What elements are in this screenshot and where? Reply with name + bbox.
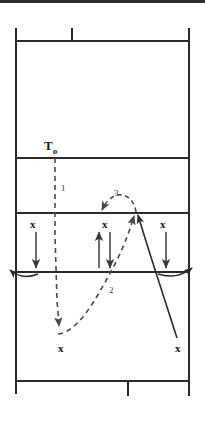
player-mark-front-middle: x bbox=[102, 218, 108, 230]
player-mark-back-right: x bbox=[175, 342, 181, 354]
path-2-dashed-curve bbox=[58, 216, 134, 334]
attack-lines bbox=[16, 158, 189, 213]
path-3-dashed-arc bbox=[102, 195, 136, 212]
server-label-text: T bbox=[44, 138, 53, 153]
net-outward-arrow-left bbox=[10, 270, 38, 276]
court-boundary bbox=[16, 41, 189, 381]
path-2-label: 2 bbox=[109, 285, 114, 295]
server-label: To bbox=[44, 138, 57, 156]
server-label-subscript: o bbox=[53, 146, 58, 156]
player-mark-front-right: x bbox=[160, 218, 166, 230]
player-mark-front-left: x bbox=[30, 218, 36, 230]
path-1-dashed-line bbox=[55, 158, 59, 326]
player-mark-back-left: x bbox=[58, 342, 64, 354]
path-1-label: 1 bbox=[61, 183, 66, 193]
diagram-canvas: To 1 2 3 x x x x x bbox=[0, 0, 205, 421]
path-3-label: 3 bbox=[114, 188, 119, 198]
court-graphic bbox=[0, 0, 205, 421]
